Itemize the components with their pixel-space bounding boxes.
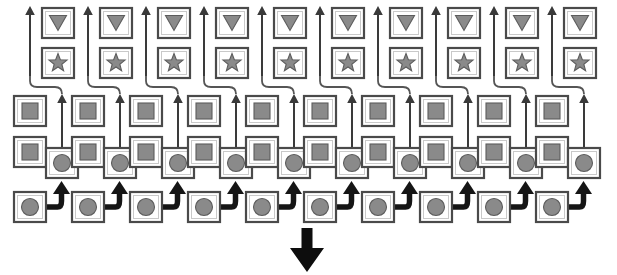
node-row-circle-bottom-7[interactable]	[420, 192, 452, 222]
node-row-star-1[interactable]	[100, 48, 132, 78]
circle-icon	[402, 155, 419, 172]
arrow-head	[289, 94, 299, 103]
node-row-square-upper-5[interactable]	[304, 96, 336, 126]
circle-icon	[170, 155, 187, 172]
thick-elbow-head-3	[227, 181, 244, 194]
node-row-circle-bottom-3[interactable]	[188, 192, 220, 222]
arrow-head	[173, 94, 183, 103]
node-row-star-0[interactable]	[42, 48, 74, 78]
arrow-head	[405, 94, 415, 103]
node-row-square-lower-3[interactable]	[188, 137, 220, 167]
node-row-triangle-5[interactable]	[332, 8, 364, 38]
node-row-star-2[interactable]	[158, 48, 190, 78]
thin-up-arrow-tall-8	[489, 6, 499, 76]
node-row-square-upper-8[interactable]	[478, 96, 510, 126]
square-icon	[254, 144, 270, 160]
circle-icon	[428, 199, 445, 216]
node-row-star-9[interactable]	[564, 48, 596, 78]
circle-icon	[54, 155, 71, 172]
thin-up-arrow-mid-5	[347, 94, 357, 148]
thick-elbow-head-9	[575, 181, 592, 194]
node-row-triangle-0[interactable]	[42, 8, 74, 38]
square-icon	[428, 103, 444, 119]
thick-elbow-head-5	[343, 181, 360, 194]
thin-up-arrow-mid-7	[463, 94, 473, 148]
square-icon	[196, 144, 212, 160]
square-icon	[486, 103, 502, 119]
node-row-square-upper-3[interactable]	[188, 96, 220, 126]
node-row-circle-bottom-2[interactable]	[130, 192, 162, 222]
node-row-circle-bottom-9[interactable]	[536, 192, 568, 222]
node-row-circle-bottom-8[interactable]	[478, 192, 510, 222]
node-row-triangle-9[interactable]	[564, 8, 596, 38]
node-row-square-lower-0[interactable]	[14, 137, 46, 167]
node-row-triangle-3[interactable]	[216, 8, 248, 38]
thick-elbow-shaft-1	[104, 192, 120, 207]
node-row-square-lower-9[interactable]	[536, 137, 568, 167]
node-row-star-5[interactable]	[332, 48, 364, 78]
circle-icon	[576, 155, 593, 172]
node-row-triangle-6[interactable]	[390, 8, 422, 38]
node-row-square-lower-5[interactable]	[304, 137, 336, 167]
thin-up-arrow-tall-4	[257, 6, 267, 76]
thin-up-arrow-tall-6	[373, 6, 383, 76]
node-row-square-upper-2[interactable]	[130, 96, 162, 126]
node-row-circle-bottom-5[interactable]	[304, 192, 336, 222]
node-row-circle-bottom-0[interactable]	[14, 192, 46, 222]
node-row-triangle-7[interactable]	[448, 8, 480, 38]
node-row-circle-bottom-1[interactable]	[72, 192, 104, 222]
node-row-square-lower-4[interactable]	[246, 137, 278, 167]
arrow-head	[431, 6, 441, 15]
node-row-triangle-8[interactable]	[506, 8, 538, 38]
square-icon	[544, 144, 560, 160]
square-icon	[254, 103, 270, 119]
arrow-head	[373, 6, 383, 15]
node-row-square-lower-2[interactable]	[130, 137, 162, 167]
node-row-square-upper-1[interactable]	[72, 96, 104, 126]
node-row-triangle-4[interactable]	[274, 8, 306, 38]
circle-icon	[286, 155, 303, 172]
thin-up-arrow-mid-3	[231, 94, 241, 148]
node-row-square-upper-7[interactable]	[420, 96, 452, 126]
node-row-circle-bottom-4[interactable]	[246, 192, 278, 222]
thick-elbow-shaft-8	[510, 192, 526, 207]
thick-elbow-shaft-3	[220, 192, 236, 207]
circle-icon	[344, 155, 361, 172]
thin-up-arrow-mid-8	[521, 94, 531, 148]
thick-elbow-shaft-6	[394, 192, 410, 207]
node-row-square-upper-9[interactable]	[536, 96, 568, 126]
node-row-star-7[interactable]	[448, 48, 480, 78]
thin-up-arrow-tall-7	[431, 6, 441, 76]
square-icon	[80, 144, 96, 160]
node-row-square-lower-1[interactable]	[72, 137, 104, 167]
square-icon	[138, 103, 154, 119]
square-icon	[22, 103, 38, 119]
circle-icon	[544, 199, 561, 216]
node-row-circle-mid-9[interactable]	[568, 148, 600, 178]
node-row-triangle-2[interactable]	[158, 8, 190, 38]
node-row-square-lower-6[interactable]	[362, 137, 394, 167]
thin-up-arrow-tall-0	[25, 6, 35, 76]
node-row-square-upper-4[interactable]	[246, 96, 278, 126]
node-row-square-lower-7[interactable]	[420, 137, 452, 167]
node-row-star-8[interactable]	[506, 48, 538, 78]
square-icon	[370, 144, 386, 160]
thin-up-arrow-mid-6	[405, 94, 415, 148]
arrow-head	[489, 6, 499, 15]
circle-icon	[22, 199, 39, 216]
node-row-square-upper-0[interactable]	[14, 96, 46, 126]
circle-icon	[228, 155, 245, 172]
node-row-circle-bottom-6[interactable]	[362, 192, 394, 222]
thick-elbow-head-8	[517, 181, 534, 194]
thick-elbow-shaft-0	[46, 192, 62, 207]
thick-elbow-head-4	[285, 181, 302, 194]
circle-icon	[138, 199, 155, 216]
node-row-star-6[interactable]	[390, 48, 422, 78]
node-row-square-upper-6[interactable]	[362, 96, 394, 126]
node-row-triangle-1[interactable]	[100, 8, 132, 38]
arrow-head	[579, 94, 589, 103]
node-row-star-3[interactable]	[216, 48, 248, 78]
node-row-star-4[interactable]	[274, 48, 306, 78]
node-layer	[14, 8, 600, 222]
node-row-square-lower-8[interactable]	[478, 137, 510, 167]
